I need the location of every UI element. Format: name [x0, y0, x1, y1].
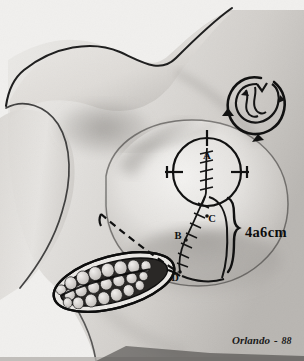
signature-layer: Orlando-88 — [0, 0, 304, 361]
signature-separator: - — [274, 334, 278, 346]
signature-year: 88 — [282, 335, 292, 346]
artist-name: Orlando — [232, 334, 270, 346]
artist-signature: Orlando-88 — [232, 334, 292, 346]
plate-bottom-wedge — [96, 346, 304, 361]
surgical-illustration-figure: A B C D 4a6cm Orlando-88 — [0, 0, 304, 361]
